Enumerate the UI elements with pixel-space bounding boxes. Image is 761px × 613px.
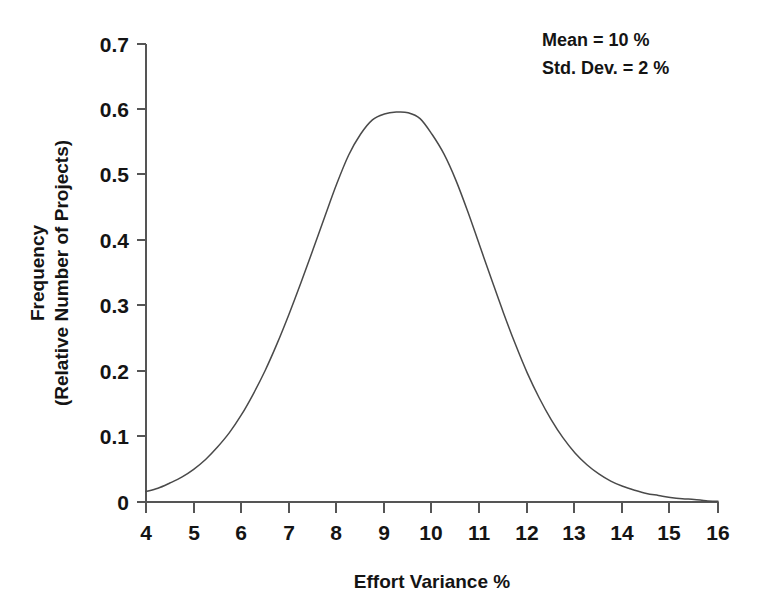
y-tick-label: 0 xyxy=(117,491,129,514)
y-tick-label: 0.5 xyxy=(100,163,130,186)
x-tick-label: 7 xyxy=(283,521,295,544)
x-tick-label: 9 xyxy=(378,521,390,544)
x-tick-label: 6 xyxy=(235,521,247,544)
x-tick-label: 8 xyxy=(330,521,342,544)
chart-figure: 0.7 0.6 0.5 0.4 0.3 0.2 0.1 0 4 5 6 7 8 … xyxy=(0,0,761,613)
y-tick-label: 0.2 xyxy=(100,360,129,383)
x-tick-label: 13 xyxy=(562,521,585,544)
y-axis-title-line1: Frequency xyxy=(27,225,48,322)
y-tick-label: 0.3 xyxy=(100,294,129,317)
x-tick-label: 15 xyxy=(657,521,681,544)
x-axis-title: Effort Variance % xyxy=(354,571,510,592)
annotation-mean: Mean = 10 % xyxy=(542,30,650,50)
x-tick-label: 5 xyxy=(188,521,200,544)
x-tick-label: 14 xyxy=(610,521,634,544)
y-tick-label: 0.1 xyxy=(100,425,130,448)
annotation-stddev: Std. Dev. = 2 % xyxy=(542,58,669,78)
y-axis-title-line2: (Relative Number of Projects) xyxy=(51,140,72,406)
distribution-curve xyxy=(146,112,718,501)
y-axis-tick-labels: 0.7 0.6 0.5 0.4 0.3 0.2 0.1 0 xyxy=(100,33,130,514)
x-axis-tick-labels: 4 5 6 7 8 9 10 11 12 13 14 15 16 xyxy=(140,521,730,544)
x-tick-label: 11 xyxy=(468,521,491,544)
x-tick-label: 10 xyxy=(419,521,442,544)
x-axis-ticks xyxy=(146,502,718,513)
chart-canvas: 0.7 0.6 0.5 0.4 0.3 0.2 0.1 0 4 5 6 7 8 … xyxy=(0,0,761,613)
y-tick-label: 0.7 xyxy=(100,33,129,56)
x-tick-label: 4 xyxy=(140,521,152,544)
x-tick-label: 16 xyxy=(706,521,729,544)
y-axis-ticks xyxy=(137,44,146,502)
y-tick-label: 0.4 xyxy=(100,229,130,252)
y-tick-label: 0.6 xyxy=(100,98,129,121)
x-tick-label: 12 xyxy=(515,521,538,544)
